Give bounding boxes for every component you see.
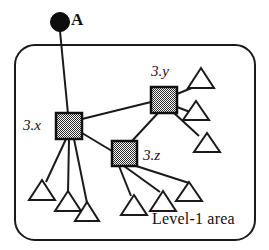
router-node-3x[interactable] — [56, 113, 82, 139]
router-node-3z[interactable] — [112, 141, 137, 166]
external-node-a[interactable] — [51, 13, 70, 32]
link-router-3z-to-leaf-z-3 — [130, 164, 189, 183]
leaf-network-triangle — [150, 191, 176, 211]
leaf-network-triangle — [176, 182, 202, 201]
link-router-3x-to-router-3y — [82, 102, 151, 119]
link-router-3x-to-leaf-x-2 — [68, 139, 69, 193]
leaf-network-triangle — [29, 180, 55, 200]
diagram-canvas: A 3.x 3.y 3.z Level-1 area — [0, 0, 269, 250]
router-3x-label: 3.x — [23, 118, 41, 133]
link-router-3x-to-router-3z — [82, 133, 112, 151]
leaf-network-triangle — [55, 191, 81, 211]
link-router-3x-to-leaf-x-3 — [74, 139, 87, 203]
leaf-network-triangle — [188, 68, 214, 88]
leaf-network-triangle — [121, 195, 147, 215]
router-3y-label: 3.y — [151, 64, 169, 79]
router-node-3y[interactable] — [151, 87, 177, 113]
link-router-3x-to-leaf-x-1 — [46, 139, 66, 182]
link-router-3z-to-leaf-z-2 — [124, 166, 160, 192]
level-1-area-label: Level-1 area — [152, 211, 235, 227]
router-3z-label: 3.z — [143, 148, 160, 163]
link-external-a-to-router-3x — [60, 31, 68, 114]
link-router-3y-to-router-3z — [132, 113, 158, 141]
external-node-a-label: A — [71, 11, 83, 28]
